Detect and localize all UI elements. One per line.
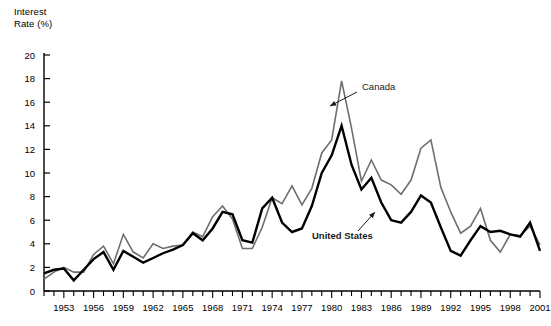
interest-rate-line-chart: Interest Rate (%) 0246810121416182019531… [0,0,551,326]
x-tick-label: 1986 [381,302,402,313]
x-tick-label: 1998 [500,302,521,313]
y-tick-label: 20 [24,50,35,61]
x-tick-label: 1971 [232,302,253,313]
x-tick-label: 1974 [262,302,283,313]
y-tick-label: 0 [30,286,35,297]
y-tick-label: 18 [24,73,35,84]
x-tick-label: 1968 [202,302,223,313]
y-tick-label: 4 [30,238,35,249]
y-tick-label: 2 [30,262,35,273]
x-tick-label: 1965 [172,302,193,313]
y-tick-label: 10 [24,168,35,179]
x-tick-label: 1953 [53,302,74,313]
x-tick-label: 2001 [529,302,550,313]
y-tick-label: 14 [24,120,35,131]
x-tick-label: 1992 [440,302,461,313]
chart-canvas: 0246810121416182019531956195919621965196… [0,0,551,326]
x-tick-label: 1995 [470,302,491,313]
x-tick-label: 1959 [113,302,134,313]
annotation-label: United States [312,230,373,241]
x-tick-label: 1962 [143,302,164,313]
y-tick-label: 6 [30,215,35,226]
x-tick-label: 1983 [351,302,372,313]
x-tick-label: 1977 [291,302,312,313]
series-line-united-states [44,126,540,281]
x-tick-label: 1956 [83,302,104,313]
annotation-united-states: United States [312,212,375,241]
x-tick-label: 1980 [321,302,342,313]
x-tick-label: 1989 [410,302,431,313]
y-tick-label: 12 [24,144,35,155]
y-tick-label: 16 [24,97,35,108]
annotation-label: Canada [362,81,396,92]
y-tick-label: 8 [30,191,35,202]
